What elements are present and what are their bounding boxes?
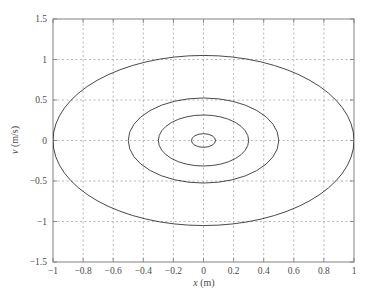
y-tick-label: 0 (0, 136, 47, 146)
x-tick-label: 1 (352, 266, 357, 276)
x-tick-label: 0.8 (318, 266, 330, 276)
y-axis-title: v (m/s) (9, 126, 20, 154)
x-axis-title: x (m) (193, 277, 214, 288)
x-tick-label: −0.8 (74, 266, 91, 276)
x-tick-label: 0.6 (288, 266, 300, 276)
x-tick-label: −1 (48, 266, 58, 276)
x-tick-label: 0.4 (258, 266, 270, 276)
x-tick-label: −0.4 (135, 266, 152, 276)
plot-canvas (0, 0, 374, 303)
x-tick-label: 0.2 (228, 266, 240, 276)
y-tick-label: 1.5 (0, 14, 47, 24)
y-tick-label: 1 (0, 55, 47, 65)
x-tick-label: −0.2 (165, 266, 182, 276)
y-tick-label: −1.5 (0, 257, 47, 267)
x-axis-title-unit: (m) (198, 277, 215, 288)
x-tick-label: 0 (201, 266, 206, 276)
y-tick-label: −1 (0, 217, 47, 227)
y-tick-label: −0.5 (0, 176, 47, 186)
y-tick-label: 0.5 (0, 95, 47, 105)
y-axis-title-symbol: v (9, 150, 20, 154)
x-tick-label: −0.6 (105, 266, 122, 276)
phase-portrait-figure: −1−0.8−0.6−0.4−0.200.20.40.60.81 −1.5−1−… (0, 0, 374, 303)
y-axis-title-unit: (m/s) (9, 126, 20, 150)
